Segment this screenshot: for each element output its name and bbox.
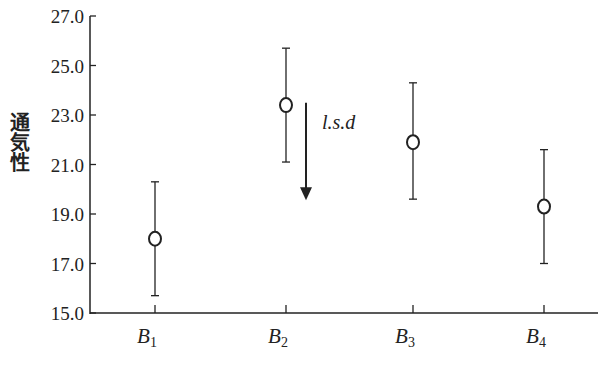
axes xyxy=(90,16,598,314)
y-tick-label: 15.0 xyxy=(51,303,84,324)
mean-marker xyxy=(538,200,550,214)
x-category-label: B3 xyxy=(395,324,415,350)
y-tick-label: 21.0 xyxy=(51,155,84,176)
mean-marker xyxy=(149,232,161,246)
lsd-label: l.s.d xyxy=(322,111,356,133)
error-bar-point xyxy=(407,83,419,199)
y-tick-label: 27.0 xyxy=(51,6,84,27)
x-category-label: B2 xyxy=(268,324,288,350)
x-ticks: B1B2B3B4 xyxy=(137,305,546,350)
mean-marker xyxy=(280,98,292,112)
error-bar-point xyxy=(280,48,292,162)
y-tick-label: 17.0 xyxy=(51,254,84,275)
arrow-down-icon xyxy=(300,187,312,200)
y-tick-label: 23.0 xyxy=(51,105,84,126)
y-axis-label: 通気性 xyxy=(8,112,30,172)
y-tick-label: 25.0 xyxy=(51,56,84,77)
error-bar-point xyxy=(538,150,550,264)
errorbar-chart: 15.017.019.021.023.025.027.0 B1B2B3B4 l.… xyxy=(0,0,614,370)
x-category-label: B4 xyxy=(526,324,546,350)
x-category-label: B1 xyxy=(137,324,157,350)
error-bars xyxy=(149,48,550,295)
y-tick-label: 19.0 xyxy=(51,204,84,225)
lsd-annotation: l.s.d xyxy=(300,103,356,201)
mean-marker xyxy=(407,135,419,149)
error-bar-point xyxy=(149,182,161,296)
y-ticks: 15.017.019.021.023.025.027.0 xyxy=(51,6,96,324)
